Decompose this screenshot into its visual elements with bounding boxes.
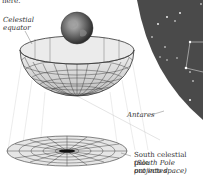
- equator-leader-line: [25, 31, 32, 44]
- celestial-equator-label-line2: equator: [3, 24, 31, 32]
- antares-label: Antares: [127, 111, 155, 119]
- header-text-fragment: here.: [2, 0, 20, 5]
- celestial-equator-label-line1: Celestial: [3, 16, 34, 24]
- celestial-hemisphere-bowl: [20, 36, 134, 96]
- earth-globe: [61, 12, 93, 44]
- projected-polar-disc: [7, 136, 127, 166]
- south-pole-label-line3: out into space): [134, 167, 187, 175]
- star-field-panel: [137, 0, 203, 120]
